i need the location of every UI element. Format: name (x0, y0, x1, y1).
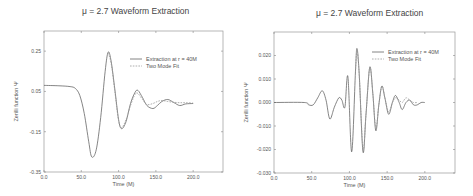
left-chart-plot: 0.050.0100.0150.0200.00.250.05-0.15-0.35… (0, 0, 236, 196)
x-tick-label: 150.0 (150, 174, 163, 180)
y-tick-label: -0.030 (257, 170, 271, 176)
y-tick-label: -0.020 (257, 146, 271, 152)
y-axis-label: Zerilli function Ψ (243, 82, 249, 122)
y-tick-label: 0.000 (258, 99, 271, 105)
x-tick-label: 0.0 (271, 175, 278, 181)
x-tick-label: 0.0 (41, 174, 48, 180)
y-axis-label: Zerilli function Ψ (13, 81, 19, 121)
x-tick-label: 50.0 (307, 175, 317, 181)
right-chart-plot: 0.050.0100.0150.0200.00.0200.0100.000-0.… (236, 0, 473, 196)
legend-label: Two Mode Fit (388, 56, 421, 62)
right-chart-panel: μ = 2.7 Waveform Extraction 0.050.0100.0… (236, 0, 473, 196)
x-tick-label: 100.0 (343, 175, 356, 181)
y-tick-label: -0.010 (257, 123, 271, 129)
left-chart-panel: μ = 2.7 Waveform Extraction 0.050.0100.0… (0, 0, 236, 196)
legend-label: Extraction at r = 40M (146, 56, 197, 62)
series-extraction (274, 48, 425, 152)
x-tick-label: 200.0 (419, 175, 432, 181)
legend-label: Extraction at r = 40M (388, 49, 439, 55)
x-tick-label: 200.0 (187, 174, 200, 180)
legend-label: Two Mode Fit (146, 63, 179, 69)
x-axis-label: Time (M) (344, 182, 366, 188)
x-tick-label: 150.0 (381, 175, 394, 181)
y-tick-label: 0.05 (31, 88, 41, 94)
y-tick-label: -0.35 (30, 169, 42, 175)
y-tick-label: 0.020 (258, 52, 271, 58)
x-tick-label: 100.0 (112, 174, 125, 180)
plot-frame (44, 31, 223, 172)
y-tick-label: -0.15 (30, 129, 42, 135)
x-axis-label: Time (M) (113, 181, 135, 187)
y-tick-label: 0.010 (258, 76, 271, 82)
y-tick-label: 0.25 (31, 48, 41, 54)
x-tick-label: 50.0 (76, 174, 86, 180)
